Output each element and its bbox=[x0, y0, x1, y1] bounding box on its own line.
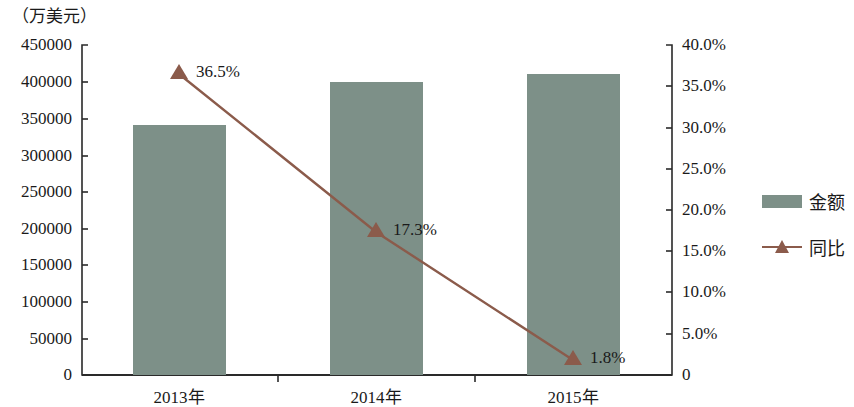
bar-2013 bbox=[133, 125, 226, 375]
legend-item-yoy: 同比 bbox=[762, 224, 854, 270]
data-label-2014: 17.3% bbox=[393, 220, 437, 240]
chart-container: （万美元） 450000 400000 350000 300000 250000… bbox=[0, 0, 854, 407]
trend-marker-2013 bbox=[170, 64, 188, 79]
data-label-2013: 36.5% bbox=[196, 62, 240, 82]
x-axis-tick-2015: 2015年 bbox=[548, 383, 599, 407]
legend-bar-swatch-icon bbox=[762, 195, 802, 208]
chart-legend: 金额 同比 bbox=[762, 178, 854, 270]
x-axis-tick-2014: 2014年 bbox=[351, 383, 402, 407]
right-axis-ticks bbox=[666, 86, 672, 334]
left-axis-ticks bbox=[82, 82, 88, 339]
legend-label-yoy: 同比 bbox=[809, 234, 845, 260]
bar-2015 bbox=[527, 74, 620, 375]
legend-item-amount: 金额 bbox=[762, 178, 854, 224]
legend-line-triangle-icon bbox=[762, 240, 802, 254]
plot-area bbox=[0, 0, 854, 407]
data-label-2015: 1.8% bbox=[590, 348, 625, 368]
x-axis-tick-2013: 2013年 bbox=[154, 383, 205, 407]
left-axis-spine bbox=[82, 45, 88, 375]
legend-label-amount: 金额 bbox=[809, 188, 845, 214]
